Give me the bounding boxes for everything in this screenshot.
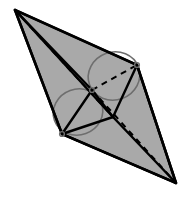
figure-container: Bipyramid wireframe diagram Shaded gray …	[0, 0, 190, 200]
bipyramid-diagram	[0, 0, 190, 200]
